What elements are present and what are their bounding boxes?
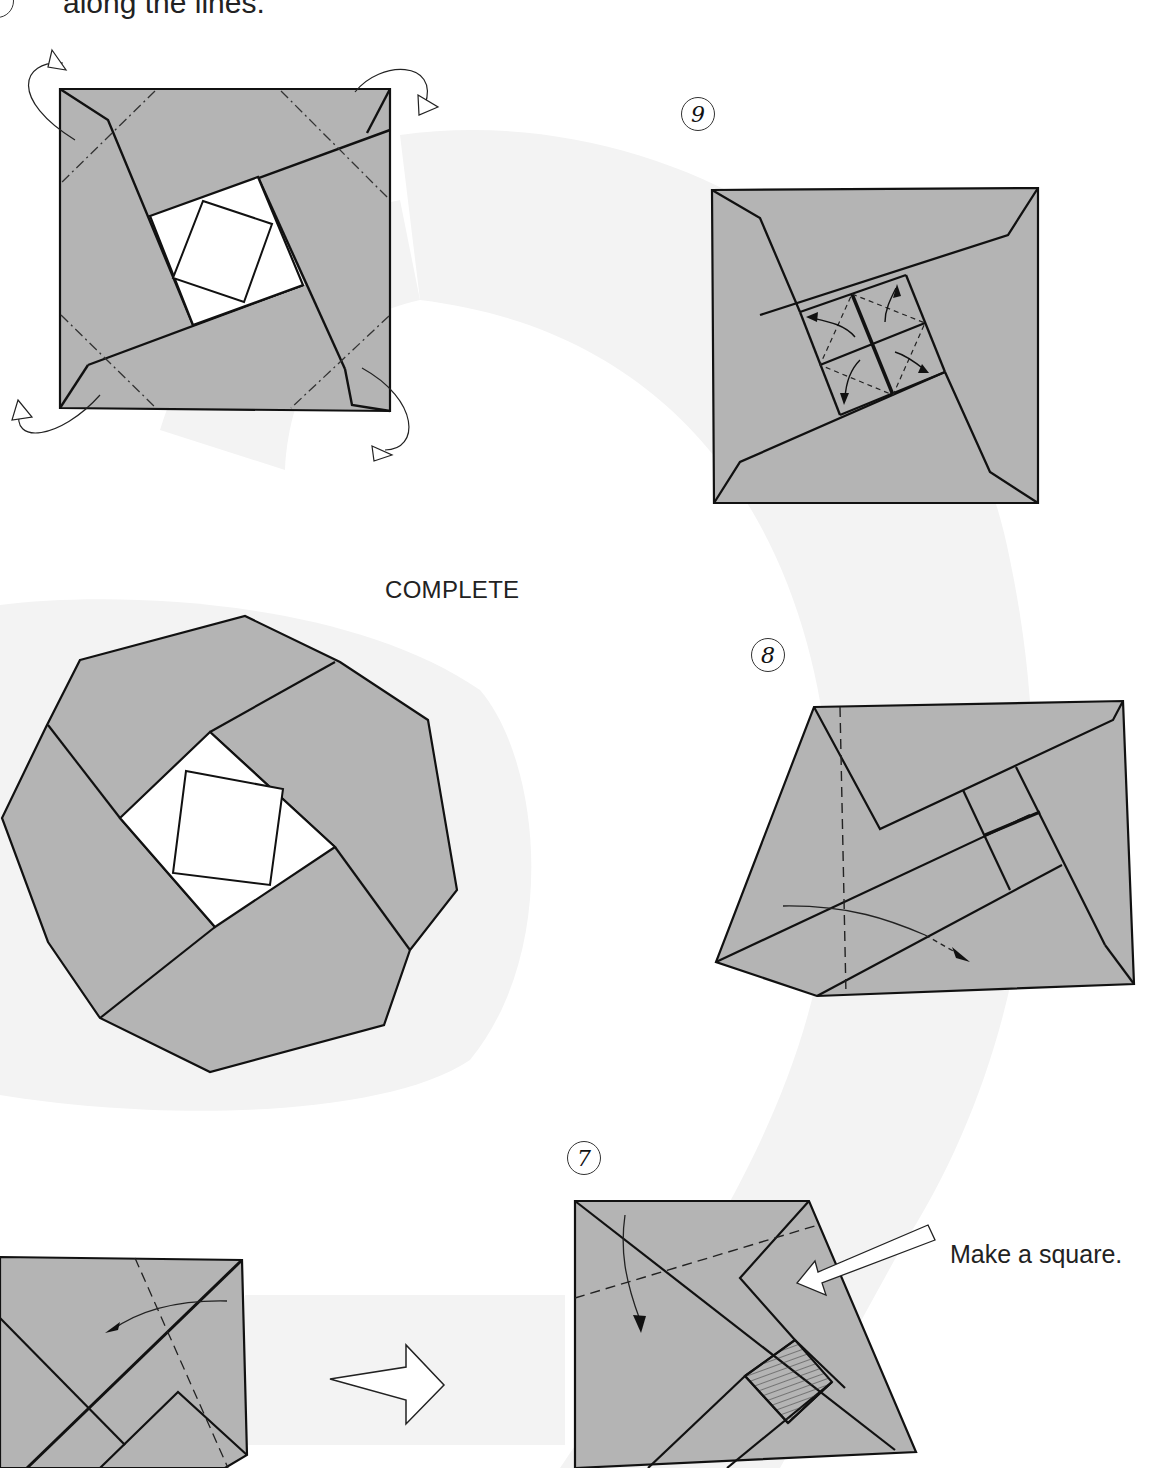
diagram-step-6-partial: [0, 0, 460, 1468]
hollow-right-arrow-icon: [328, 1345, 448, 1425]
origami-instruction-page: along the lines.: [0, 0, 1156, 1468]
